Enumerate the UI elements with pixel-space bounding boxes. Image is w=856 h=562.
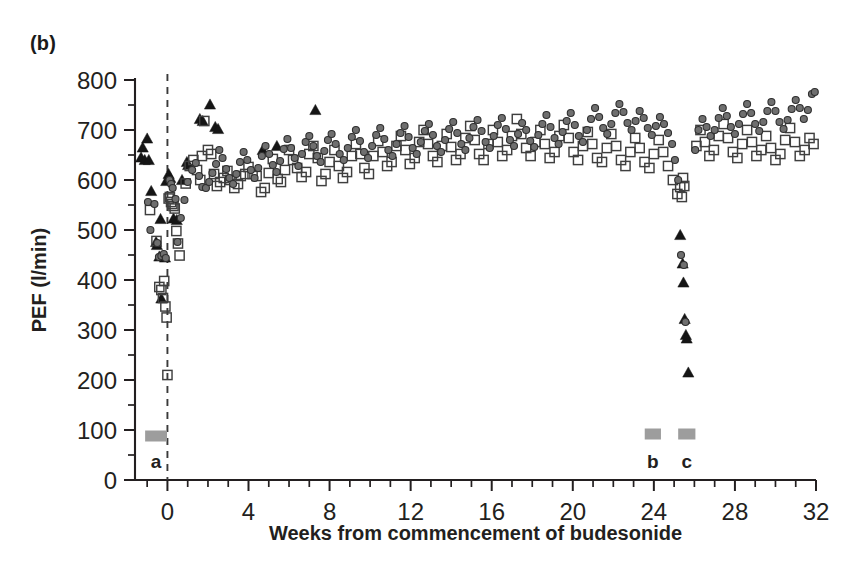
- data-point: [539, 121, 546, 128]
- pef-scatter-chart: 0100200300400500600700800048121620242832…: [0, 0, 856, 562]
- data-point: [612, 110, 619, 117]
- data-point: [784, 117, 791, 124]
- data-point: [146, 185, 157, 195]
- x-tick-label: 0: [161, 498, 174, 525]
- data-point: [735, 121, 742, 128]
- data-point: [695, 127, 702, 134]
- data-point: [429, 132, 436, 139]
- data-point: [423, 139, 432, 148]
- data-point: [748, 110, 755, 117]
- data-point: [682, 319, 689, 326]
- data-point: [162, 255, 169, 262]
- x-tick-label: 24: [641, 498, 668, 525]
- data-point: [531, 144, 538, 151]
- data-point: [219, 155, 226, 162]
- data-point: [715, 115, 722, 122]
- data-point: [740, 111, 747, 118]
- data-point: [317, 159, 324, 166]
- data-point: [738, 139, 747, 148]
- data-point: [766, 143, 775, 152]
- data-point: [373, 132, 380, 139]
- data-point: [284, 136, 291, 143]
- data-point: [699, 116, 706, 123]
- data-point: [216, 147, 223, 154]
- y-tick-label: 200: [77, 367, 117, 394]
- data-point: [792, 97, 799, 104]
- data-point: [511, 143, 518, 150]
- data-point: [425, 121, 432, 128]
- data-point: [462, 147, 469, 154]
- data-point: [555, 141, 562, 148]
- data-point: [264, 168, 273, 177]
- data-point: [796, 105, 803, 112]
- data-point: [723, 113, 730, 120]
- data-point: [175, 251, 184, 260]
- data-point: [332, 141, 339, 148]
- data-point: [656, 114, 663, 121]
- data-point: [266, 151, 273, 158]
- data-point: [764, 108, 771, 115]
- data-point: [781, 135, 790, 144]
- data-point: [780, 126, 787, 133]
- data-point: [344, 145, 351, 152]
- data-point: [649, 149, 658, 158]
- data-point: [478, 128, 485, 135]
- data-point: [438, 149, 445, 156]
- period-bar-a: [145, 431, 167, 442]
- data-point: [652, 123, 659, 130]
- data-point: [262, 143, 269, 150]
- data-point: [675, 229, 686, 239]
- data-point: [470, 124, 477, 131]
- data-point: [535, 132, 542, 139]
- data-point: [596, 114, 603, 121]
- data-point: [628, 127, 635, 134]
- y-tick-label: 100: [77, 417, 117, 444]
- x-tick-label: 32: [803, 498, 830, 525]
- data-point: [632, 118, 639, 125]
- data-point: [405, 134, 412, 141]
- period-bar-label-c: c: [682, 451, 693, 472]
- data-point: [417, 139, 424, 146]
- data-point: [310, 143, 317, 150]
- data-point: [288, 145, 295, 152]
- series-circle: [144, 89, 818, 326]
- data-point: [172, 226, 181, 235]
- data-point: [571, 122, 578, 129]
- data-point: [540, 139, 549, 148]
- data-point: [365, 155, 372, 162]
- data-point: [620, 109, 627, 116]
- data-point: [711, 127, 718, 134]
- data-point: [413, 151, 420, 158]
- data-point: [490, 133, 497, 140]
- data-point: [680, 262, 687, 269]
- data-point: [727, 124, 734, 131]
- data-point: [760, 119, 767, 126]
- data-point: [703, 124, 710, 131]
- data-point: [352, 127, 359, 134]
- data-point: [177, 215, 184, 222]
- data-point: [397, 130, 404, 137]
- data-point: [233, 171, 240, 178]
- data-point: [454, 130, 461, 137]
- data-point: [291, 155, 298, 162]
- x-tick-label: 8: [323, 498, 336, 525]
- data-point: [192, 160, 199, 167]
- data-point: [144, 199, 151, 206]
- data-point: [269, 162, 276, 169]
- data-point: [299, 151, 306, 158]
- data-point: [223, 166, 230, 173]
- data-point: [772, 108, 779, 115]
- data-point: [240, 149, 247, 156]
- data-point: [692, 147, 699, 154]
- x-tick-label: 4: [242, 498, 255, 525]
- y-tick-label: 800: [77, 67, 117, 94]
- data-point: [659, 147, 668, 156]
- period-bar-b: [645, 429, 661, 440]
- data-point: [675, 177, 682, 184]
- data-point: [800, 116, 807, 123]
- data-point: [369, 143, 376, 150]
- data-point: [588, 139, 597, 148]
- period-bar-label-a: a: [151, 451, 162, 472]
- data-point: [442, 137, 449, 144]
- data-point: [230, 181, 237, 188]
